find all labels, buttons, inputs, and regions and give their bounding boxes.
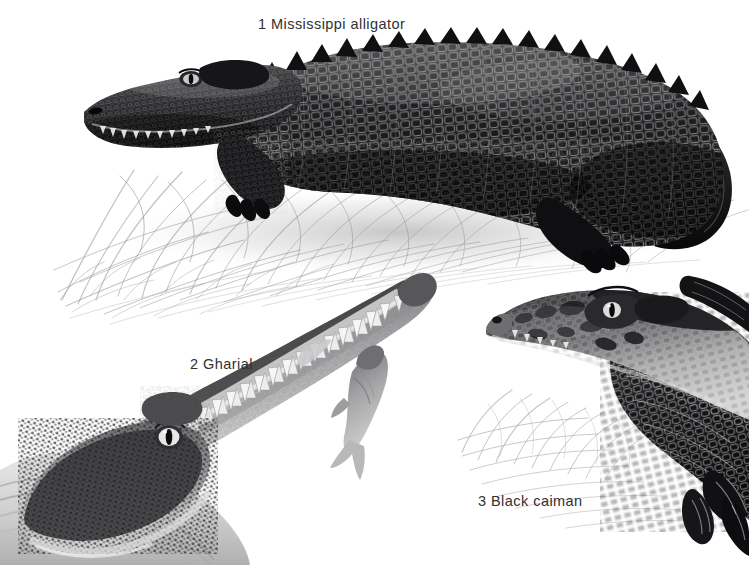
figure-black-caiman bbox=[458, 276, 749, 556]
gharial-head bbox=[18, 386, 218, 556]
plate-artwork bbox=[0, 0, 749, 565]
caption-mississippi-alligator: 1 Mississippi alligator bbox=[258, 17, 405, 32]
caption-black-caiman: 3 Black caiman bbox=[478, 494, 583, 509]
alligator-forelimb bbox=[214, 130, 288, 221]
illustration-plate: 1 Mississippi alligator 2 Gharial 3 Blac… bbox=[0, 0, 749, 565]
figure-gharial bbox=[0, 258, 450, 565]
caption-gharial: 2 Gharial bbox=[190, 357, 253, 372]
figure-mississippi-alligator bbox=[54, 27, 749, 324]
